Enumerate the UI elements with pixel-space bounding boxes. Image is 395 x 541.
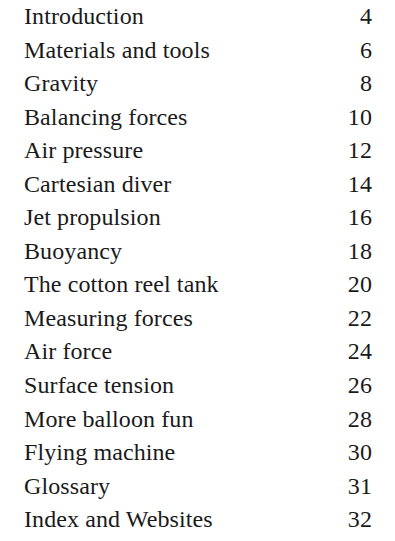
- toc-entry[interactable]: Buoyancy 18: [24, 235, 372, 269]
- toc-entry-page-number: 12: [336, 134, 372, 168]
- toc-entry[interactable]: Introduction 4: [24, 0, 372, 34]
- toc-entry[interactable]: Gravity 8: [24, 67, 372, 101]
- toc-entry[interactable]: Glossary 31: [24, 470, 372, 504]
- toc-entry-page-number: 32: [336, 503, 372, 537]
- toc-entry-title: Balancing forces: [24, 101, 188, 135]
- toc-entry-page-number: 31: [336, 470, 372, 504]
- toc-entry-title: More balloon fun: [24, 403, 194, 437]
- toc-entry-page-number: 22: [336, 302, 372, 336]
- toc-entry-title: Jet propulsion: [24, 201, 161, 235]
- toc-entry-page-number: 26: [336, 369, 372, 403]
- toc-entry-title: Index and Websites: [24, 503, 213, 537]
- toc-entry-title: Surface tension: [24, 369, 174, 403]
- toc-entry[interactable]: Balancing forces 10: [24, 101, 372, 135]
- toc-entry-page-number: 16: [336, 201, 372, 235]
- toc-entry-title: Introduction: [24, 0, 144, 34]
- toc-entry-page-number: 20: [336, 268, 372, 302]
- toc-entry-title: Glossary: [24, 470, 110, 504]
- toc-entry-title: Measuring forces: [24, 302, 193, 336]
- table-of-contents: Introduction 4 Materials and tools 6 Gra…: [0, 0, 395, 541]
- toc-entry-title: Cartesian diver: [24, 168, 171, 202]
- toc-entry-page-number: 8: [348, 67, 372, 101]
- toc-entry-page-number: 30: [336, 436, 372, 470]
- toc-entry-page-number: 6: [348, 34, 372, 68]
- toc-entry[interactable]: Jet propulsion 16: [24, 201, 372, 235]
- toc-entry-page-number: 10: [336, 101, 372, 135]
- toc-entry-title: Gravity: [24, 67, 98, 101]
- toc-entry[interactable]: More balloon fun 28: [24, 403, 372, 437]
- toc-entry-title: Flying machine: [24, 436, 175, 470]
- toc-entry-page-number: 28: [336, 403, 372, 437]
- toc-entry-page-number: 14: [336, 168, 372, 202]
- toc-entry[interactable]: The cotton reel tank 20: [24, 268, 372, 302]
- toc-entry-page-number: 18: [336, 235, 372, 269]
- toc-entry[interactable]: Cartesian diver 14: [24, 168, 372, 202]
- toc-entry[interactable]: Air force 24: [24, 335, 372, 369]
- toc-entry[interactable]: Surface tension 26: [24, 369, 372, 403]
- toc-entry[interactable]: Air pressure 12: [24, 134, 372, 168]
- toc-entry-title: Materials and tools: [24, 34, 210, 68]
- toc-entry-title: Air force: [24, 335, 112, 369]
- toc-entry-title: Air pressure: [24, 134, 143, 168]
- toc-entry-title: The cotton reel tank: [24, 268, 219, 302]
- toc-entry-page-number: 4: [348, 0, 372, 34]
- toc-entry[interactable]: Flying machine 30: [24, 436, 372, 470]
- toc-entry-title: Buoyancy: [24, 235, 122, 269]
- toc-entry[interactable]: Materials and tools 6: [24, 34, 372, 68]
- toc-entry[interactable]: Index and Websites 32: [24, 503, 372, 537]
- toc-entry[interactable]: Measuring forces 22: [24, 302, 372, 336]
- toc-entry-page-number: 24: [336, 335, 372, 369]
